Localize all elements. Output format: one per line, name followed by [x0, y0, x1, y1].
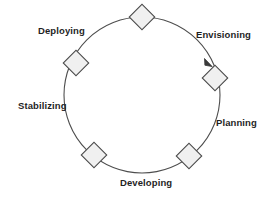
- node-envisioning: [202, 65, 227, 90]
- node-planning: [176, 143, 201, 168]
- phase-label-deploying: Deploying: [38, 25, 85, 37]
- phase-label-envisioning: Envisioning: [196, 29, 251, 41]
- node-top: [129, 4, 154, 29]
- phase-label-stabilizing: Stabilizing: [18, 100, 67, 112]
- phase-label-developing: Developing: [120, 177, 172, 189]
- msf-process-model-diagram: Envisioning Planning Developing Stabiliz…: [0, 0, 272, 199]
- phase-label-planning: Planning: [216, 117, 257, 129]
- node-developing: [81, 142, 106, 167]
